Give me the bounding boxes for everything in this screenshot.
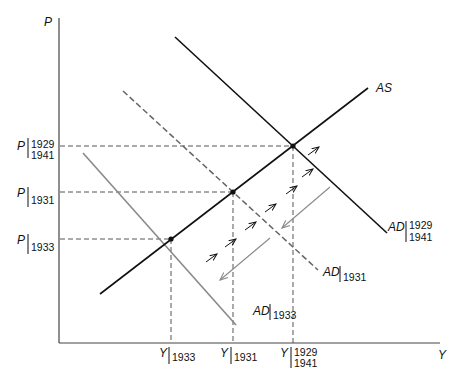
ad-1933-curve xyxy=(83,153,236,325)
ad-1933-label: AD xyxy=(252,304,270,318)
equilibrium-1929 xyxy=(290,143,295,148)
y-1929-sub2: 1941 xyxy=(294,357,318,369)
ad-1929-label: AD xyxy=(387,220,405,234)
y-1933-sub1: 1933 xyxy=(172,351,196,363)
ad-1931-curve xyxy=(123,91,318,270)
p-1933-label: P xyxy=(17,233,25,247)
y-1931-label: Y xyxy=(220,346,229,360)
decline-arrows xyxy=(220,187,330,280)
x-axis-label: Y xyxy=(438,348,447,362)
ad-1931-label: AD xyxy=(322,265,340,279)
p-1931-label: P xyxy=(17,186,25,200)
p-1929-sub2: 1941 xyxy=(31,149,55,161)
ad-1929-sub2: 1941 xyxy=(409,231,433,243)
y-1929-label: Y xyxy=(280,346,289,360)
ad-1933-sub1: 1933 xyxy=(273,309,297,321)
as-label: AS xyxy=(375,81,392,95)
equilibrium-1933 xyxy=(168,236,173,241)
p-1933-sub1: 1933 xyxy=(31,241,55,253)
y-axis-label: P xyxy=(44,15,52,29)
p-1929-label: P xyxy=(17,139,25,153)
equilibrium-1931 xyxy=(230,189,235,194)
y-1933-label: Y xyxy=(159,346,168,360)
ad-as-diagram: P Y AS AD 1929 1941 AD 1931 AD 1933 P 19… xyxy=(0,0,463,380)
ad-1929-curve xyxy=(175,37,387,233)
p-1931-sub1: 1931 xyxy=(31,194,55,206)
ad-1931-sub1: 1931 xyxy=(343,271,367,283)
ad-1929-sub1: 1929 xyxy=(409,219,433,231)
y-1931-sub1: 1931 xyxy=(234,351,258,363)
